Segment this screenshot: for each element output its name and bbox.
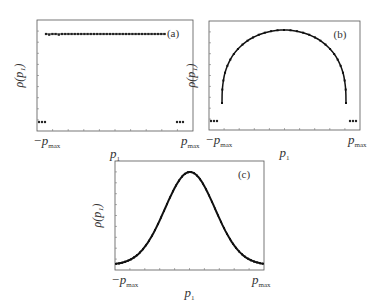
series-a <box>38 33 184 123</box>
series-c <box>115 171 264 265</box>
y-axis-label: ρ(p₁) <box>90 204 104 229</box>
x-min-label: −pmax <box>33 133 61 150</box>
x-axis-label: p1 <box>184 285 196 302</box>
panel-c: (c)ρ(p₁)−pmaxpmaxp1 <box>90 161 271 302</box>
x-max-label: pmax <box>180 133 200 150</box>
x-max-label: pmax <box>251 272 271 289</box>
x-axis-label: p1 <box>109 146 121 163</box>
x-min-label: −pmax <box>111 272 139 289</box>
series-b <box>210 29 357 122</box>
y-axis-label: ρ(p₁) <box>12 64 26 89</box>
panel-tag: (a) <box>167 27 180 40</box>
panel-tag: (b) <box>334 28 347 41</box>
figure: (a)ρ(p₁)−pmaxpmaxp1(b)ρ(p₁)−pmaxpmaxp1(c… <box>0 0 386 306</box>
panel-b: (b)ρ(p₁)−pmaxpmaxp1 <box>184 21 367 162</box>
panel-a: (a)ρ(p₁)−pmaxpmaxp1 <box>12 20 200 163</box>
panel-tag: (c) <box>238 168 251 181</box>
x-max-label: pmax <box>347 132 367 149</box>
y-axis-label: ρ(p₁) <box>184 64 198 89</box>
x-min-label: −pmax <box>205 132 233 149</box>
x-axis-label: p1 <box>279 145 291 162</box>
